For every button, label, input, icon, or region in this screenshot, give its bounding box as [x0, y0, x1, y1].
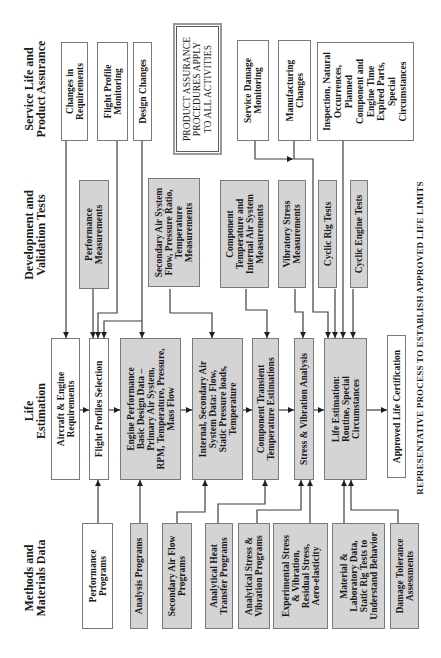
box-material-laboratory-data: Material & Laboratory Data, Static Rig T… [332, 523, 385, 629]
box-aircraft-engine-requirements: Aircraft & Engine Requirements [51, 338, 80, 480]
box-manufacturing-changes: Manufacturing Changes [278, 40, 311, 141]
arrow-sec-air-programs-to-internal [177, 480, 205, 523]
arrow-secondary-air-meas-to-internal [170, 289, 212, 338]
life-limit-process-diagram: Methods and Materials Data Life Estimati… [0, 0, 441, 658]
arrow-analytical-stress-to-stress [257, 480, 301, 523]
box-analytical-stress-programs: Analytical Stress & Vibration Programs [238, 523, 270, 629]
box-secondary-air-flow-programs: Secondary Air Flow Programs [162, 523, 192, 629]
diagram-page: Methods and Materials Data Life Estimati… [0, 0, 441, 658]
header-life-estimation: Life Estimation [21, 356, 49, 466]
box-flight-profiles-selection: Flight Profiles Selection [89, 338, 109, 480]
box-performance-programs: Performance Programs [82, 523, 113, 629]
box-life-estimation-routine: Life Estimation: Routine, Special Circum… [324, 338, 367, 480]
arrow-damage-tolerance-to-life-estimation [351, 480, 398, 523]
header-service-life: Service Life and Product Assurance [21, 28, 49, 150]
box-cyclic-engine-tests: Cyclic Engine Tests [350, 180, 368, 288]
box-service-damage-monitoring: Service Damage Monitoring [237, 40, 269, 141]
box-component-temperature-measurements: Component Temperature and Internal Air S… [220, 180, 269, 288]
box-design-changes: Design Changes [133, 42, 152, 141]
arrow-component-temp-meas-to-transient [246, 289, 267, 338]
arrow-heat-transfer-to-transient [218, 480, 265, 523]
box-performance-measurements: Performance Measurements [79, 180, 109, 289]
box-stress-vibration-analysis: Stress & Vibration Analysis [294, 338, 314, 480]
box-secondary-air-measurements: Secondary Air System Flow, Pressure Rati… [148, 178, 200, 287]
figure-caption: REPRESENTATIVE PROCESS TO ESTABLISH APPR… [412, 118, 428, 558]
arrow-service-damage-to-manufacturing [255, 141, 293, 159]
box-changes-in-requirements: Changes in Requirements [61, 42, 88, 141]
box-heat-transfer-programs: Analytical Heat Transfer Programs [205, 523, 233, 629]
box-cyclic-rig-tests: Cyclic Rig Tests [318, 180, 337, 288]
box-analysis-programs: Analysis Programs [130, 523, 148, 629]
box-flight-profile-monitoring: Flight Profile Monitoring [97, 42, 128, 141]
product-assurance-note: PRODUCT ASSURANCE PROCEDURES APPLY TO AL… [173, 23, 222, 155]
box-engine-performance-data: Engine Performance Basic Design Data – P… [120, 338, 181, 480]
box-experimental-stress: Experimental Stress & Vibration, Residua… [273, 523, 328, 629]
box-approved-life-certification: Approved Life Certification [387, 335, 406, 478]
arrow-design-changes-to-profiles [104, 321, 142, 338]
box-inspection-circumstances: Inspection, Natural Occurrences, Planned… [317, 42, 414, 141]
box-component-transient-temperature: Component Transient Temperature Estimati… [252, 338, 279, 480]
arrow-vibratory-to-stress [295, 289, 303, 338]
header-development: Development and Validation Tests [21, 176, 49, 294]
box-vibratory-stress-measurements: Vibratory Stress Measurements [278, 180, 306, 288]
header-methods: Methods and Materials Data [21, 518, 49, 638]
box-internal-secondary-air-data: Internal, Secondary Air System Data: Flo… [192, 338, 243, 480]
